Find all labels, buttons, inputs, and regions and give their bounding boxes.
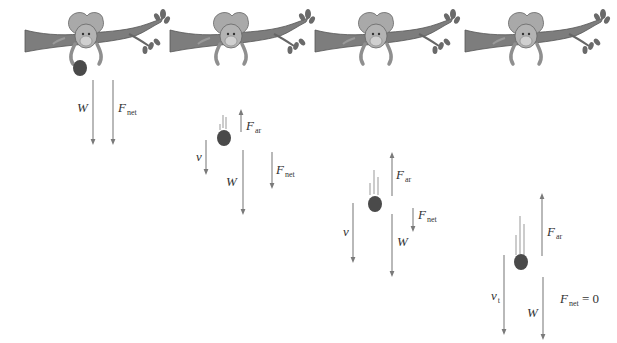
net-force-label: Fnet <box>418 208 437 221</box>
panel-1 <box>25 9 171 142</box>
coconut-icon <box>514 254 528 270</box>
weight-label: W <box>527 306 538 319</box>
velocity-label: v <box>343 225 349 238</box>
weight-label: W <box>397 235 408 248</box>
falling-coconut-diagram: W Fnet Far v W Fnet Far v W Fnet Far vt … <box>0 0 617 343</box>
air-resistance-label: Far <box>547 225 562 238</box>
net-force-label: Fnet <box>276 163 295 176</box>
air-resistance-label: Far <box>396 168 411 181</box>
coconut-icon <box>217 130 231 146</box>
weight-label: W <box>226 175 237 188</box>
monkey-on-branch-icon <box>465 9 611 64</box>
panel-3 <box>315 9 461 274</box>
terminal-velocity-label: vt <box>491 289 500 302</box>
coconut-icon <box>73 60 87 76</box>
panel-2 <box>170 9 316 212</box>
panel-4 <box>465 9 611 337</box>
coconut-icon <box>368 196 382 212</box>
monkey-on-branch-icon <box>170 9 316 64</box>
monkey-on-branch-icon <box>25 9 171 64</box>
weight-label: W <box>77 101 88 114</box>
velocity-label: v <box>196 150 202 163</box>
monkey-on-branch-icon <box>315 9 461 64</box>
air-resistance-label: Far <box>246 119 261 132</box>
diagram-canvas <box>0 0 617 343</box>
net-force-zero-label: Fnet = 0 <box>560 292 599 305</box>
net-force-label: Fnet <box>118 101 137 114</box>
